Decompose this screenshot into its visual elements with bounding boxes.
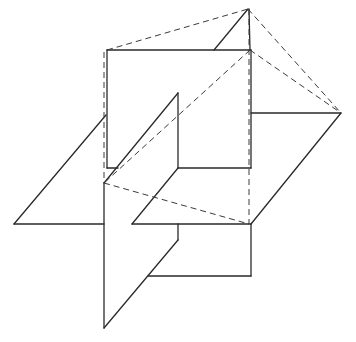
dashed-edge-1	[248, 9, 341, 113]
solid-edge-13	[104, 93, 178, 183]
dashed-edge-2	[250, 50, 341, 113]
solid-edge-6	[214, 9, 248, 50]
solid-edges	[14, 9, 341, 328]
solid-edge-14	[104, 240, 178, 328]
solid-edge-10	[14, 115, 106, 224]
geometric-planes-diagram	[0, 0, 356, 342]
hidden-dashed-edges	[104, 9, 341, 224]
solid-edge-9	[251, 113, 341, 224]
solid-edge-16	[132, 168, 178, 224]
dashed-edge-4	[104, 183, 249, 224]
dashed-edge-0	[107, 9, 248, 50]
dashed-edge-3	[104, 50, 250, 183]
